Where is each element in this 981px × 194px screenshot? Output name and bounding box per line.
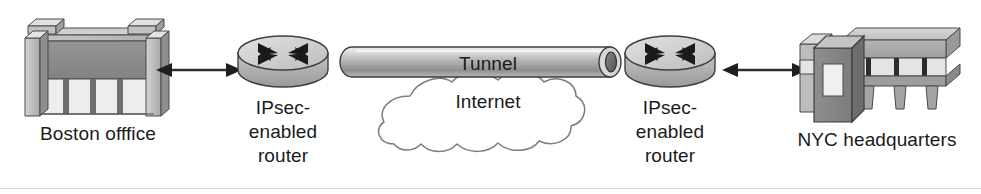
node-nyc-headquarters[interactable] (790, 12, 966, 124)
network-diagram: Boston offfice (0, 0, 981, 194)
node-left-router[interactable] (235, 34, 331, 92)
node-right-router[interactable] (622, 34, 718, 92)
router-icon (622, 34, 718, 92)
nyc-headquarters-label: NYC headquarters (772, 128, 981, 151)
bottom-divider (0, 188, 981, 189)
double-arrow-icon (156, 60, 242, 80)
internet-label: Internet (388, 90, 588, 113)
tunnel-label: Tunnel (388, 52, 588, 75)
node-boston-office[interactable] (22, 8, 172, 126)
router-icon (235, 34, 331, 92)
right-router-label: IPsec- enabled router (610, 96, 730, 168)
office-building-icon (22, 8, 172, 126)
connector-left-link (156, 60, 242, 80)
boston-office-label: Boston offfice (0, 122, 196, 145)
left-router-label: IPsec- enabled router (223, 96, 343, 168)
headquarters-building-icon (790, 12, 966, 124)
